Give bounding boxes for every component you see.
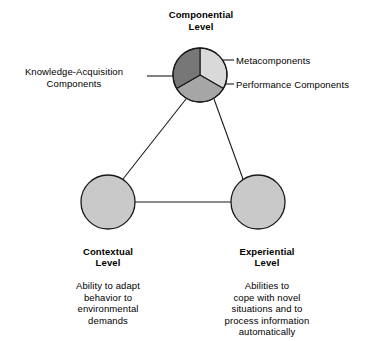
edge-componential-contextual	[123, 99, 186, 179]
contextual-level-description: Ability to adapt behavior to environment…	[44, 280, 172, 326]
connector-lines	[123, 99, 243, 202]
experiential-level-description: Abilities to cope with novel situations …	[192, 280, 342, 338]
componential-level-title: Componential Level	[141, 9, 261, 32]
edge-componential-experiential	[214, 99, 243, 179]
performance-components-label: Performance Components	[236, 79, 382, 91]
knowledge-acquisition-components-label: Knowledge-Acquisition Components	[4, 66, 144, 89]
contextual-level-group: Contextual Level Ability to adapt behavi…	[44, 234, 172, 338]
experiential-level-title: Experiential Level	[192, 246, 342, 269]
node-circle-experiential	[231, 175, 285, 229]
node-circle-contextual	[81, 175, 135, 229]
metacomponents-label: Metacomponents	[236, 55, 376, 67]
componential-pie	[173, 48, 227, 102]
contextual-level-title: Contextual Level	[44, 246, 172, 269]
experiential-level-group: Experiential Level Abilities to cope wit…	[192, 234, 342, 341]
